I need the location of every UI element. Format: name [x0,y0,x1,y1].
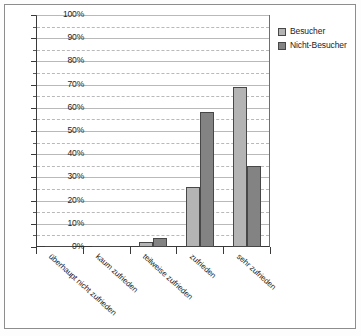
legend-label: Nicht-Besucher [290,41,347,50]
x-axis-tick-mark [36,247,37,254]
x-axis-category-label: teilweise zufrieden [141,252,195,301]
y-axis-tick-mark [31,108,36,109]
y-axis-tick-mark [31,224,36,225]
bar-chart: 0%10%20%30%40%50%60%70%80%90%100% überha… [0,0,361,336]
y-axis-tick-mark [31,38,36,39]
bar-besucher [45,246,59,247]
y-axis-tick-label: 50% [44,126,84,135]
y-axis-minor-tick-mark [33,143,36,144]
y-axis-tick-mark [31,201,36,202]
gridline-minor [37,50,269,51]
gridline-minor [37,27,269,28]
legend-item: Besucher [278,27,358,36]
y-axis-tick-label: 40% [44,149,84,158]
bar-besucher [92,246,106,247]
y-axis-tick-mark [31,131,36,132]
x-axis-tick-mark [270,247,271,254]
bar-besucher [233,87,247,247]
x-axis-tick-mark [176,247,177,254]
legend-label: Besucher [290,27,325,36]
y-axis-tick-label: 80% [44,56,84,65]
y-axis-minor-tick-mark [33,27,36,28]
chart-legend: BesucherNicht-Besucher [278,27,358,55]
x-axis-category-label: sehr zufrieden [235,252,278,292]
x-axis-category-label: zufrieden [188,252,218,280]
x-axis-category-label: kaum zufrieden [94,252,140,294]
y-axis-tick-mark [31,85,36,86]
legend-swatch-icon [278,42,286,50]
y-axis-tick-label: 20% [44,196,84,205]
y-axis-minor-tick-mark [33,50,36,51]
y-axis-tick-label: 30% [44,172,84,181]
y-axis-tick-label: 90% [44,33,84,42]
y-axis-minor-tick-mark [33,212,36,213]
y-axis-tick-mark [31,177,36,178]
y-axis-tick-mark [31,15,36,16]
y-axis-minor-tick-mark [33,119,36,120]
y-axis-minor-tick-mark [33,96,36,97]
y-axis-tick-label: 70% [44,80,84,89]
bar-nicht-besucher [106,246,120,247]
bar-nicht-besucher [247,166,261,247]
y-axis-minor-tick-mark [33,73,36,74]
bar-nicht-besucher [200,112,214,247]
bar-nicht-besucher [59,246,73,247]
y-axis-tick-label: 10% [44,219,84,228]
figure: 0%10%20%30%40%50%60%70%80%90%100% überha… [0,0,361,336]
bar-besucher [186,187,200,247]
bar-nicht-besucher [153,238,167,247]
gridline-minor [37,73,269,74]
y-axis-minor-tick-mark [33,235,36,236]
y-axis-tick-mark [31,61,36,62]
legend-item: Nicht-Besucher [278,41,358,50]
x-axis-tick-mark [223,247,224,254]
y-axis-tick-mark [31,154,36,155]
y-axis-minor-tick-mark [33,166,36,167]
legend-swatch-icon [278,28,286,36]
y-axis-minor-tick-mark [33,189,36,190]
y-axis-tick-label: 60% [44,103,84,112]
x-axis-tick-mark [83,247,84,254]
y-axis-tick-label: 100% [44,10,84,19]
bar-besucher [139,242,153,247]
x-axis-tick-mark [130,247,131,254]
